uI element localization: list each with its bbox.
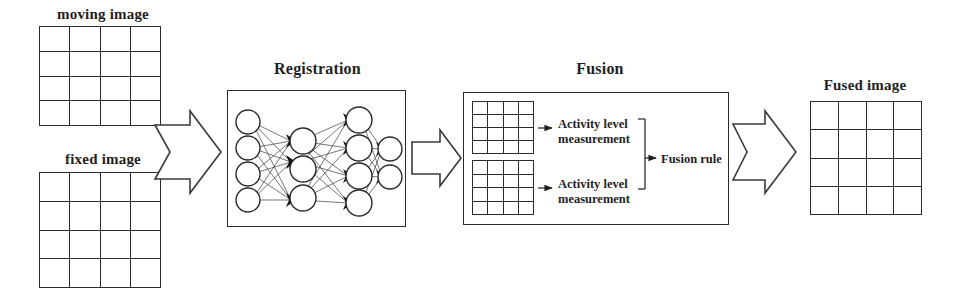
grid-cell	[811, 159, 839, 187]
grid-cell	[867, 102, 895, 130]
grid-cell	[70, 27, 100, 52]
grid-cell	[894, 102, 922, 130]
grid-cell	[131, 77, 161, 102]
grid-cell	[504, 161, 519, 175]
grid-cell	[488, 202, 503, 216]
grid-cell	[519, 202, 534, 216]
grid-cell	[473, 128, 488, 141]
grid-cell	[40, 231, 70, 260]
fusion-input-grid-bottom	[472, 160, 534, 215]
grid-cell	[101, 202, 131, 231]
arrow-fusion-to-output-icon	[733, 111, 796, 193]
grid-cell	[504, 102, 519, 115]
grid-cell	[488, 128, 503, 141]
fused-image-caption: Fused image	[800, 77, 930, 94]
activity-level-measurement-top: Activity level measurement	[558, 117, 658, 147]
grid-cell	[131, 173, 161, 202]
grid-cell	[488, 175, 503, 189]
fusion-rule-label: Fusion rule	[661, 152, 722, 167]
grid-cell	[473, 202, 488, 216]
grid-cell	[70, 77, 100, 102]
grid-cell	[40, 52, 70, 77]
activity-level-measurement-bottom: Activity level measurement	[558, 177, 658, 207]
pipeline-diagram: moving image fixed image	[0, 0, 958, 299]
grid-cell	[839, 159, 867, 187]
grid-cell	[101, 52, 131, 77]
grid-cell	[504, 202, 519, 216]
fixed-image-grid	[39, 172, 161, 288]
registration-title: Registration	[240, 60, 395, 78]
grid-cell	[519, 141, 534, 154]
grid-cell	[70, 173, 100, 202]
grid-cell	[519, 115, 534, 128]
grid-cell	[101, 101, 131, 126]
grid-cell	[70, 202, 100, 231]
grid-cell	[40, 101, 70, 126]
moving-image-caption: moving image	[36, 6, 170, 23]
grid-cell	[504, 141, 519, 154]
grid-cell	[101, 173, 131, 202]
grid-cell	[867, 130, 895, 158]
fixed-image-caption: fixed image	[36, 151, 170, 168]
grid-cell	[473, 141, 488, 154]
grid-cell	[131, 231, 161, 260]
grid-cell	[40, 259, 70, 288]
grid-cell	[473, 188, 488, 202]
grid-cell	[894, 159, 922, 187]
grid-cell	[70, 231, 100, 260]
fusion-title: Fusion	[540, 60, 660, 78]
grid-cell	[131, 27, 161, 52]
grid-cell	[504, 175, 519, 189]
grid-cell	[70, 52, 100, 77]
fusion-input-grid-top	[472, 101, 534, 154]
grid-cell	[131, 52, 161, 77]
grid-cell	[70, 259, 100, 288]
arrow-registration-to-fusion-icon	[412, 130, 461, 186]
grid-cell	[867, 187, 895, 215]
grid-cell	[811, 130, 839, 158]
grid-cell	[40, 27, 70, 52]
grid-cell	[473, 175, 488, 189]
grid-cell	[101, 27, 131, 52]
grid-cell	[40, 202, 70, 231]
grid-cell	[504, 188, 519, 202]
fused-image-grid	[810, 101, 922, 215]
grid-cell	[488, 141, 503, 154]
grid-cell	[519, 188, 534, 202]
grid-cell	[839, 187, 867, 215]
grid-cell	[488, 115, 503, 128]
grid-cell	[488, 102, 503, 115]
grid-cell	[811, 187, 839, 215]
grid-cell	[811, 102, 839, 130]
grid-cell	[839, 102, 867, 130]
grid-cell	[488, 161, 503, 175]
grid-cell	[519, 128, 534, 141]
grid-cell	[867, 159, 895, 187]
grid-cell	[519, 102, 534, 115]
grid-cell	[101, 259, 131, 288]
grid-cell	[504, 115, 519, 128]
grid-cell	[839, 130, 867, 158]
grid-cell	[519, 161, 534, 175]
grid-cell	[894, 130, 922, 158]
grid-cell	[101, 77, 131, 102]
grid-cell	[101, 231, 131, 260]
grid-cell	[131, 202, 161, 231]
grid-cell	[131, 101, 161, 126]
grid-cell	[519, 175, 534, 189]
grid-cell	[70, 101, 100, 126]
registration-panel	[227, 90, 406, 227]
grid-cell	[473, 115, 488, 128]
grid-cell	[894, 187, 922, 215]
moving-image-grid	[39, 26, 161, 126]
grid-cell	[504, 128, 519, 141]
grid-cell	[488, 188, 503, 202]
grid-cell	[473, 161, 488, 175]
grid-cell	[131, 259, 161, 288]
grid-cell	[473, 102, 488, 115]
grid-cell	[40, 77, 70, 102]
grid-cell	[40, 173, 70, 202]
